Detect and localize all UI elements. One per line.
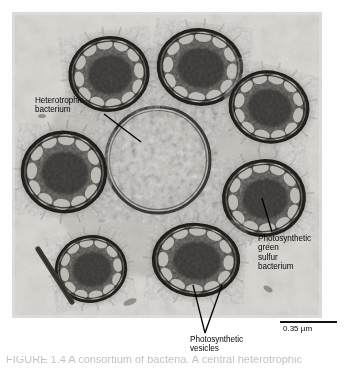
heterotrophic-bacterium-cell [102, 104, 214, 216]
cropped-caption-text: FIGURE 1.4 A consortium of bacteria. A c… [6, 356, 302, 365]
micrograph-figure: Heterotrophic bacterium Photosynthetic g… [0, 0, 347, 369]
label-photosynthetic-green-sulfur-bacterium: Photosynthetic green sulfur bacterium [258, 234, 311, 271]
micrograph-image [12, 12, 322, 318]
label-heterotrophic-bacterium: Heterotrophic bacterium [35, 96, 84, 115]
electron-micrograph-panel [12, 12, 322, 318]
label-photosynthetic-vesicles: Photosynthetic vesicles [190, 335, 243, 354]
cropped-caption-band: FIGURE 1.4 A consortium of bacteria. A c… [0, 356, 347, 369]
scale-bar-label: 0.35 µm [283, 324, 312, 333]
scale-bar [280, 321, 337, 323]
